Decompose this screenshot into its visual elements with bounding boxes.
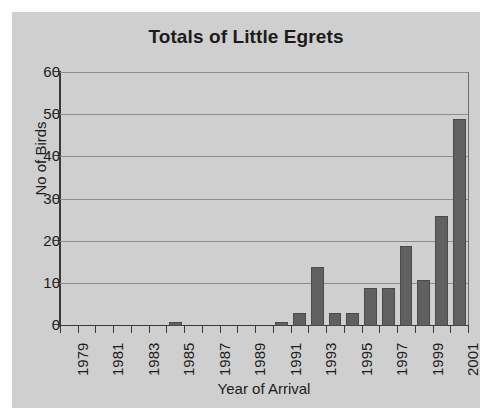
- x-tick-label: 1997: [394, 343, 409, 376]
- x-tick-label: 1991: [288, 343, 303, 376]
- x-tick-mark: [344, 325, 345, 333]
- x-tick-label: 1999: [430, 343, 445, 376]
- chart-canvas: Totals of Little Egrets No of Birds 0102…: [12, 12, 480, 408]
- bars-layer: [60, 73, 468, 326]
- x-tick-label: 2001: [465, 343, 480, 376]
- y-tick-label: 0: [26, 317, 60, 332]
- x-tick-mark: [113, 325, 114, 333]
- x-tick-mark: [273, 325, 274, 333]
- bar-1999: [417, 280, 430, 326]
- x-tick-mark: [397, 325, 398, 333]
- x-tick-mark: [255, 325, 256, 333]
- x-tick-mark: [291, 325, 292, 333]
- x-tick-mark: [166, 325, 167, 333]
- x-tick-label: 1979: [75, 343, 90, 376]
- chart-title: Totals of Little Egrets: [12, 26, 480, 48]
- y-tick-label: 50: [26, 106, 60, 121]
- x-tick-mark: [184, 325, 185, 333]
- x-tick-mark: [326, 325, 327, 333]
- y-tick-label: 10: [26, 275, 60, 290]
- plot-area: [60, 72, 469, 326]
- chart-figure: Totals of Little Egrets No of Birds 0102…: [0, 0, 492, 420]
- x-tick-mark: [308, 325, 309, 333]
- x-tick-mark: [149, 325, 150, 333]
- x-tick-label: 1987: [217, 343, 232, 376]
- x-axis-title: Year of Arrival: [60, 380, 468, 397]
- y-tick-label: 40: [26, 148, 60, 163]
- x-tick-label: 1995: [359, 343, 374, 376]
- bar-1997: [382, 288, 395, 326]
- x-tick-mark: [415, 325, 416, 333]
- x-tick-mark: [220, 325, 221, 333]
- x-tick-mark: [78, 325, 79, 333]
- x-tick-mark: [60, 325, 61, 333]
- x-tick-label: 1993: [323, 343, 338, 376]
- y-tick-label: 20: [26, 233, 60, 248]
- x-tick-label: 1981: [110, 343, 125, 376]
- x-tick-label: 1985: [181, 343, 196, 376]
- x-tick-mark: [468, 325, 469, 333]
- x-tick-mark: [450, 325, 451, 333]
- x-tick-mark: [202, 325, 203, 333]
- x-tick-mark: [379, 325, 380, 333]
- y-tick-label: 30: [26, 191, 60, 206]
- y-tick-label: 60: [26, 64, 60, 79]
- y-axis-ticks: 0102030405060: [12, 12, 60, 325]
- x-tick-label: 1983: [146, 343, 161, 376]
- x-tick-mark: [433, 325, 434, 333]
- bar-1998: [400, 246, 413, 326]
- x-tick-mark: [362, 325, 363, 333]
- x-tick-mark: [95, 325, 96, 333]
- bar-2001: [453, 119, 466, 326]
- bar-2000: [435, 216, 448, 326]
- x-tick-mark: [131, 325, 132, 333]
- x-tick-label: 1989: [252, 343, 267, 376]
- bar-1996: [364, 288, 377, 326]
- bar-1993: [311, 267, 324, 326]
- x-tick-mark: [237, 325, 238, 333]
